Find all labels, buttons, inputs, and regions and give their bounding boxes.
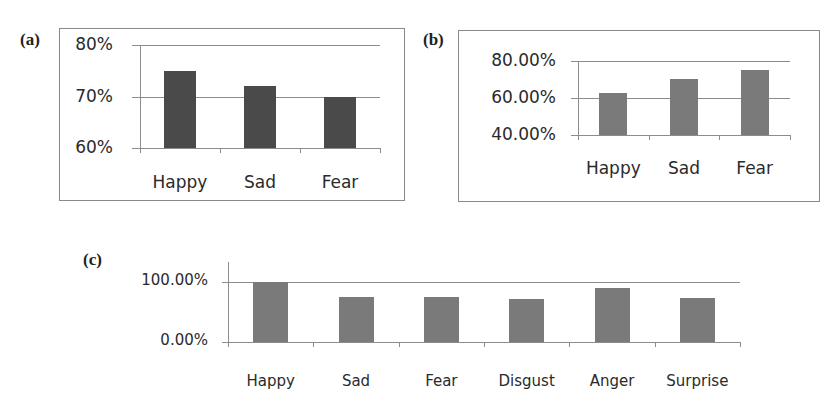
x-tick-mark [649,135,650,140]
bar-fear [324,97,356,149]
bar-sad [670,79,698,135]
panel-label-a: (a) [20,30,40,50]
y-tick-label: 40.00% [491,124,556,144]
x-tick-mark [399,342,400,347]
panel-label-b: (b) [423,30,444,50]
y-axis [140,45,141,153]
gridline [132,45,380,46]
x-tick-mark [228,342,229,347]
x-tick-label: Fear [705,158,805,178]
x-tick-mark [578,135,579,140]
bar-happy [253,282,288,342]
bar-sad [339,297,374,342]
panel-label-c: (c) [83,250,102,270]
y-axis [228,262,229,347]
gridline [222,282,740,283]
bar-fear [424,297,459,342]
x-tick-label: Fear [290,172,390,192]
x-tick-mark [380,148,381,153]
gridline [571,135,790,136]
x-tick-mark [484,342,485,347]
x-tick-mark [220,148,221,153]
bar-fear [741,70,769,135]
x-tick-mark [300,148,301,153]
x-tick-mark [655,342,656,347]
bar-happy [164,71,196,148]
x-tick-mark [790,135,791,140]
x-tick-label: Surprise [647,372,747,390]
x-tick-mark [313,342,314,347]
bar-anger [595,288,630,342]
bar-sad [244,86,276,148]
y-tick-label: 80% [75,34,113,54]
bar-surprise [680,298,715,342]
x-tick-mark [740,342,741,347]
gridline [222,342,740,343]
y-tick-label: 0.00% [160,331,208,349]
bar-happy [599,93,627,135]
y-tick-label: 100.00% [141,271,208,289]
gridline [571,61,790,62]
y-tick-label: 70% [75,86,113,106]
y-axis [578,61,579,140]
x-tick-mark [569,342,570,347]
y-tick-label: 80.00% [491,50,556,70]
x-tick-mark [719,135,720,140]
y-tick-label: 60% [75,137,113,157]
bar-disgust [509,299,544,342]
x-tick-mark [140,148,141,153]
y-tick-label: 60.00% [491,87,556,107]
gridline [132,148,380,149]
